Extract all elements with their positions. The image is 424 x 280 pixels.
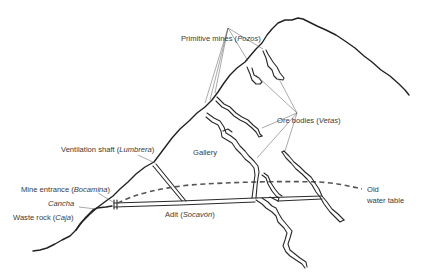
label-cancha: Cancha [48,199,74,208]
label-ore-bodies: Ore bodies (Vetas) [277,116,341,125]
label-waste-rock: Waste rock (Caja) [13,213,74,222]
label-adit: Adit (Socavón) [165,210,215,219]
mine-entrance [114,200,117,209]
ventilation-shaft [153,164,186,201]
ore-vein-right [282,151,344,222]
label-primitive-mines: Primitive mines (Pozos) [181,34,261,43]
label-mine-entrance: Mine entrance (Bocamina) [21,185,111,194]
label-old-water-table-line1: Old [367,185,379,194]
adit-tunnel [114,196,322,207]
mountain-profile [33,18,409,251]
label-ventilation-shaft: Ventilation shaft (Lumbrera) [61,145,155,154]
label-gallery: Gallery [193,148,217,157]
ore-vein-lower-cross [256,173,307,268]
mine-cross-section-diagram: Primitive mines (Pozos) Ore bodies (Veta… [0,0,424,280]
primitive-mine-shafts [247,50,284,84]
waste-rock-slope [76,206,112,230]
label-old-water-table-line2: water table [366,196,404,205]
